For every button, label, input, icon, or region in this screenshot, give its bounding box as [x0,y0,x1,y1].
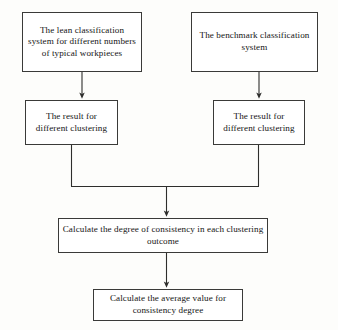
node-result-different-clustering-right: The result for different clustering [213,100,305,145]
node-calculate-degree-of-consistency: Calculate the degree of consistency in e… [58,218,268,253]
node-label: Calculate the average value for consiste… [94,293,242,316]
node-calculate-average-value: Calculate the average value for consiste… [93,289,243,321]
node-result-different-clustering-left: The result for different clustering [25,100,118,145]
flowchart-diagram: The lean classification system for diffe… [0,0,338,330]
node-lean-classification-system: The lean classification system for diffe… [22,12,142,72]
node-label: The lean classification system for diffe… [23,25,141,60]
node-label: The benchmark classification system [192,30,317,53]
node-label: Calculate the degree of consistency in e… [59,224,267,247]
node-label: The result for different clustering [26,111,117,134]
node-label: The result for different clustering [214,111,304,134]
node-benchmark-classification-system: The benchmark classification system [191,12,318,72]
